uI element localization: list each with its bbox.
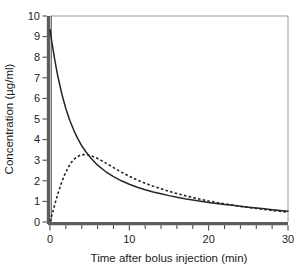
y-axis-ticks bbox=[43, 16, 47, 222]
y-tick-label: 6 bbox=[34, 92, 40, 104]
y-tick-label: 4 bbox=[34, 133, 40, 145]
y-tick-label: 9 bbox=[34, 30, 40, 42]
y-tick-label: 3 bbox=[34, 154, 40, 166]
y-tick-label: 8 bbox=[34, 51, 40, 63]
y-tick-label: 2 bbox=[34, 175, 40, 187]
y-axis-title: Concentration (µg/ml) bbox=[3, 63, 15, 174]
chart-figure: 0102030 012345678910 Time after bolus in… bbox=[0, 0, 300, 269]
x-tick-label: 10 bbox=[123, 233, 135, 245]
y-tick-label: 1 bbox=[34, 195, 40, 207]
x-axis-title: Time after bolus injection (min) bbox=[91, 252, 248, 264]
plot-area-background bbox=[50, 16, 288, 222]
concentration-time-plot: 0102030 012345678910 Time after bolus in… bbox=[0, 0, 300, 269]
x-axis-tick-labels: 0102030 bbox=[47, 233, 294, 245]
y-tick-label: 5 bbox=[34, 113, 40, 125]
y-tick-label: 0 bbox=[34, 216, 40, 228]
x-axis-minor-ticks bbox=[66, 225, 272, 229]
y-tick-label: 7 bbox=[34, 72, 40, 84]
y-axis-tick-labels: 012345678910 bbox=[28, 10, 40, 228]
x-tick-label: 30 bbox=[282, 233, 294, 245]
x-axis-ticks bbox=[50, 225, 288, 230]
x-tick-label: 0 bbox=[47, 233, 53, 245]
x-tick-label: 20 bbox=[203, 233, 215, 245]
y-tick-label: 10 bbox=[28, 10, 40, 22]
